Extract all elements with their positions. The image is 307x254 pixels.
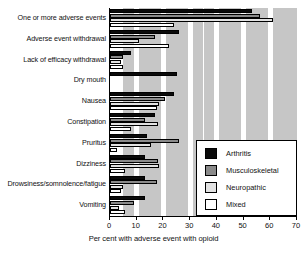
x-tick: [136, 216, 137, 220]
category-label: Lack of efficacy withdrawal: [23, 56, 106, 64]
bar-neuropathic: [110, 18, 273, 22]
bar-mixed: [110, 44, 169, 48]
bar-arthritis: [110, 51, 131, 55]
legend-label: Mixed: [226, 200, 246, 209]
legend-swatch-arthritis: [205, 148, 217, 159]
legend-item-musculoskeletal: Musculoskeletal: [205, 164, 279, 177]
bar-musculoskeletal: [110, 55, 123, 59]
x-tick-label: 20: [152, 221, 172, 230]
bar-group: [110, 70, 297, 91]
bar-arthritis: [110, 155, 145, 159]
category-label: Drowsiness/somnolence/fatigue: [7, 180, 106, 188]
category-axis-labels: One or more adverse eventsAdverse event …: [0, 0, 106, 216]
category-label: Vomiting: [79, 201, 106, 209]
bar-group: [110, 29, 297, 50]
x-axis-line: [109, 216, 296, 217]
legend-item-neuropathic: Neuropathic: [205, 181, 266, 194]
x-tick: [216, 216, 217, 220]
bar-arthritis: [110, 92, 174, 96]
bar-neuropathic: [110, 185, 123, 189]
x-tick: [162, 216, 163, 220]
bar-musculoskeletal: [110, 159, 158, 163]
x-tick-label: 70: [286, 221, 306, 230]
legend-item-arthritis: Arthritis: [205, 147, 251, 160]
bar-arthritis: [110, 30, 179, 34]
category-label: Adverse event withdrawal: [27, 35, 107, 43]
bar-neuropathic: [110, 122, 158, 126]
bar-group: [110, 50, 297, 71]
bar-neuropathic: [110, 60, 121, 64]
category-label: One or more adverse events: [18, 14, 107, 22]
bar-group: [110, 91, 297, 112]
bar-musculoskeletal: [110, 139, 179, 143]
bar-mixed: [110, 148, 117, 152]
bar-musculoskeletal: [110, 118, 145, 122]
bar-musculoskeletal: [110, 97, 165, 101]
bar-mixed: [110, 106, 157, 110]
bar-musculoskeletal: [110, 201, 134, 205]
x-tick-label: 10: [126, 221, 146, 230]
bar-group: [110, 8, 297, 29]
bar-neuropathic: [110, 39, 139, 43]
bar-mixed: [110, 169, 125, 173]
chart-legend: ArthritisMusculoskeletalNeuropathicMixed: [196, 140, 297, 216]
x-tick: [269, 216, 270, 220]
bar-arthritis: [110, 9, 252, 13]
category-label: Pruritus: [82, 139, 106, 147]
bar-musculoskeletal: [110, 180, 157, 184]
bar-arthritis: [110, 72, 177, 76]
bar-neuropathic: [110, 143, 151, 147]
bar-musculoskeletal: [110, 14, 260, 18]
bar-mixed: [110, 23, 174, 27]
x-tick-label: 50: [233, 221, 253, 230]
x-axis-label: Per cent with adverse event with opioid: [0, 234, 307, 243]
legend-swatch-neuropathic: [205, 182, 217, 193]
legend-swatch-mixed: [205, 199, 217, 210]
category-label: Constipation: [67, 118, 106, 126]
bar-neuropathic: [110, 102, 159, 106]
bar-mixed: [110, 65, 123, 69]
bar-group: [110, 112, 297, 133]
bar-musculoskeletal: [110, 35, 155, 39]
category-label: Dry mouth: [74, 76, 106, 84]
bar-mixed: [110, 189, 121, 193]
bar-mixed: [110, 127, 131, 131]
legend-label: Neuropathic: [226, 183, 266, 192]
x-tick: [243, 216, 244, 220]
bar-chart-figure: One or more adverse eventsAdverse event …: [0, 0, 307, 254]
legend-swatch-musculoskeletal: [205, 165, 217, 176]
legend-label: Arthritis: [226, 149, 251, 158]
x-tick-label: 30: [179, 221, 199, 230]
bar-arthritis: [110, 134, 147, 138]
category-label: Nausea: [82, 97, 106, 105]
bar-mixed: [110, 210, 125, 214]
bar-arthritis: [110, 176, 145, 180]
x-tick: [109, 216, 110, 220]
x-tick: [189, 216, 190, 220]
x-tick-label: 0: [99, 221, 119, 230]
bar-arthritis: [110, 113, 155, 117]
legend-item-mixed: Mixed: [205, 198, 246, 211]
legend-label: Musculoskeletal: [226, 166, 279, 175]
bar-arthritis: [110, 196, 145, 200]
bar-neuropathic: [110, 164, 159, 168]
x-tick: [296, 216, 297, 220]
category-label: Dizziness: [76, 160, 106, 168]
x-tick-label: 60: [259, 221, 279, 230]
x-tick-label: 40: [206, 221, 226, 230]
bar-neuropathic: [110, 206, 119, 210]
